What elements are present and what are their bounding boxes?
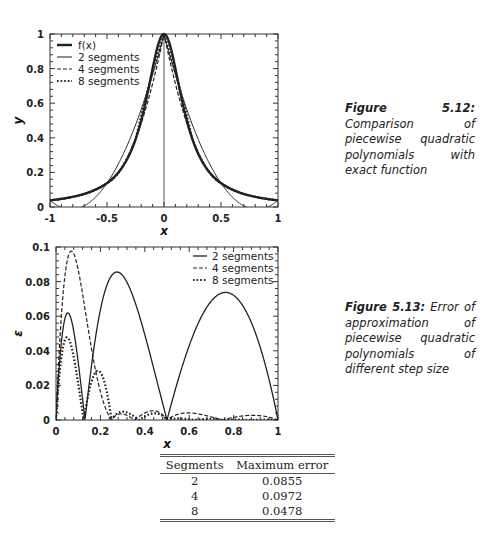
legend-label: 2 segments bbox=[78, 51, 140, 63]
error-curve-2-segments bbox=[56, 272, 278, 420]
x-tick-label: -0.5 bbox=[96, 213, 118, 224]
cell: 0.0855 bbox=[229, 474, 335, 490]
figure-5-12-caption: Figure 5.12: Comparison of piecewise qua… bbox=[345, 101, 475, 179]
caption-text: Comparison of piecewise quadratic polyno… bbox=[345, 117, 475, 178]
y-tick-label: 0.2 bbox=[26, 167, 44, 178]
cell: 2 bbox=[160, 474, 229, 490]
legend-label: 4 segments bbox=[78, 63, 140, 75]
max-error-table: Segments Maximum error 20.0855 40.0972 8… bbox=[160, 454, 335, 522]
cell: 0.0478 bbox=[229, 504, 335, 521]
y-tick-label: 0.02 bbox=[25, 380, 50, 391]
y-tick-label: 0.06 bbox=[25, 311, 50, 322]
y-tick-label: 0.6 bbox=[26, 98, 44, 109]
x-tick-label: 0 bbox=[161, 213, 168, 224]
legend-label: 4 segments bbox=[212, 262, 274, 274]
x-tick-label: 1 bbox=[275, 426, 282, 437]
column-header: Maximum error bbox=[229, 456, 335, 474]
cell: 8 bbox=[160, 504, 229, 521]
x-tick-label: 0.8 bbox=[225, 426, 243, 437]
cell: 4 bbox=[160, 489, 229, 504]
x-tick-label: -1 bbox=[44, 213, 55, 224]
column-header: Segments bbox=[160, 456, 229, 474]
legend-label: 2 segments bbox=[212, 250, 274, 262]
table-header-row: Segments Maximum error bbox=[160, 456, 335, 474]
y-tick-label: 0.08 bbox=[25, 277, 50, 288]
y-tick-label: 0.04 bbox=[25, 346, 50, 357]
y-tick-label: 0.8 bbox=[26, 64, 44, 75]
x-axis-label: x bbox=[159, 224, 169, 238]
x-tick-label: 0.6 bbox=[180, 426, 198, 437]
y-tick-label: 0.1 bbox=[32, 242, 50, 253]
x-tick-label: 0 bbox=[53, 426, 60, 437]
x-axis-label: x bbox=[162, 437, 172, 451]
y-tick-label: 0 bbox=[43, 415, 50, 426]
y-tick-label: 0.4 bbox=[26, 133, 44, 144]
y-axis-label: ε bbox=[11, 330, 25, 337]
x-tick-label: 1 bbox=[275, 213, 282, 224]
legend: 2 segments4 segments8 segments bbox=[193, 250, 274, 286]
legend-label: 8 segments bbox=[78, 75, 140, 87]
legend-label: 8 segments bbox=[212, 274, 274, 286]
figure-5-12-chart: -1-0.500.5100.20.40.60.81xyf(x)2 segment… bbox=[11, 29, 282, 238]
table-row: 20.0855 bbox=[160, 474, 335, 490]
x-tick-label: 0.5 bbox=[212, 213, 230, 224]
cell: 0.0972 bbox=[229, 489, 335, 504]
y-tick-label: 0 bbox=[37, 202, 44, 213]
y-tick-label: 1 bbox=[37, 29, 44, 40]
caption-label: Figure 5.12: bbox=[345, 101, 475, 115]
x-tick-label: 0.2 bbox=[92, 426, 110, 437]
legend-label: f(x) bbox=[78, 39, 96, 51]
figure-5-13-chart: 00.20.40.60.8100.020.040.060.080.1xε2 se… bbox=[11, 242, 282, 451]
y-axis-label: y bbox=[11, 115, 25, 124]
figure-5-13-caption: Figure 5.13: Error of approximation of p… bbox=[345, 300, 475, 378]
x-tick-label: 0.4 bbox=[136, 426, 154, 437]
table-row: 80.0478 bbox=[160, 504, 335, 521]
table-row: 40.0972 bbox=[160, 489, 335, 504]
legend: f(x)2 segments4 segments8 segments bbox=[57, 39, 140, 87]
caption-label: Figure 5.13: bbox=[345, 300, 425, 314]
